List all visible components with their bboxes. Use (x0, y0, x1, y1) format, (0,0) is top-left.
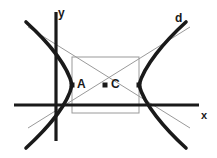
point-marker-c (103, 83, 108, 88)
asymptote-label-d: d (175, 12, 182, 24)
geometry-canvas (0, 0, 217, 158)
point-marker-b (137, 83, 142, 88)
vertex-label-a: A (77, 78, 86, 90)
hyperbola-right-branch (139, 22, 186, 148)
hyperbola-left-branch (26, 22, 72, 148)
point-marker-a (70, 83, 75, 88)
center-label-c: C (111, 78, 120, 90)
x-axis-label: x (201, 110, 207, 121)
y-axis-label: y (58, 7, 65, 19)
hyperbola-figure: y d x A C (0, 0, 217, 158)
